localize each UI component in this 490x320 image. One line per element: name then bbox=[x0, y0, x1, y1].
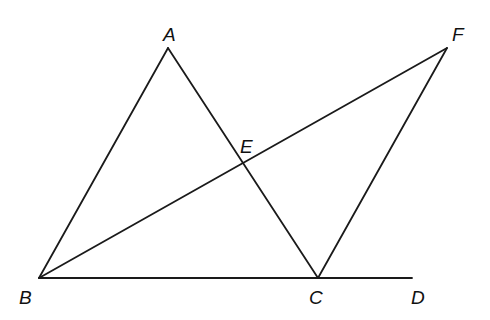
geometry-diagram: A B C D E F bbox=[0, 0, 490, 320]
segment-cf bbox=[318, 48, 447, 278]
segment-bf bbox=[39, 48, 447, 278]
point-label-f: F bbox=[452, 24, 465, 45]
point-label-e: E bbox=[240, 136, 253, 157]
point-label-a: A bbox=[162, 24, 176, 45]
point-label-d: D bbox=[411, 287, 425, 308]
point-label-c: C bbox=[309, 287, 323, 308]
point-label-b: B bbox=[19, 287, 32, 308]
segment-ab bbox=[39, 48, 168, 278]
